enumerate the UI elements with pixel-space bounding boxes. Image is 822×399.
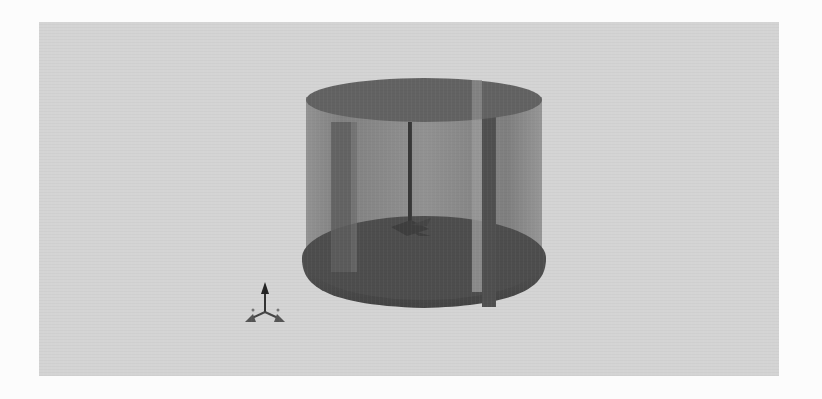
figure-page [0,0,822,399]
baffle-right [472,92,496,307]
impeller-shaft [408,122,412,232]
axis-triad-icon [245,282,285,322]
tank-render [39,22,779,376]
tank-top-face [306,78,542,122]
render-viewport[interactable] [39,22,779,376]
baffle-left [331,122,357,272]
